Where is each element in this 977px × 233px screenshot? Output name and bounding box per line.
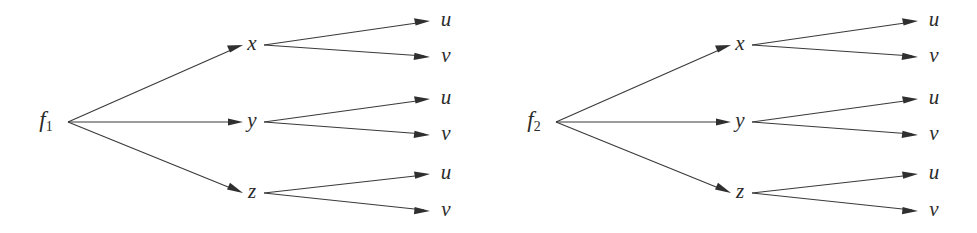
arrowhead-y-to-v-right <box>902 131 918 138</box>
arrowhead-x-to-v-right <box>902 53 918 60</box>
root-node-label-right: f2 <box>527 107 540 134</box>
tree-diagram-figure: f1 x y <box>0 0 977 233</box>
edge-z-to-v-left <box>264 193 424 210</box>
leaf-label-y-v-right: v <box>929 121 939 145</box>
leaf-label-z-u-right: u <box>929 160 940 184</box>
edge-root-to-x-right <box>556 47 726 122</box>
leaf-label-x-u-right: u <box>929 7 940 31</box>
arrowhead-z-to-u-left <box>414 172 430 179</box>
arrowhead-y-to-u-left <box>414 96 430 103</box>
root-node-label-left: f1 <box>39 107 52 134</box>
edge-x-to-u-left <box>264 22 424 45</box>
arrowhead-y-to-v-left <box>414 131 430 138</box>
leaf-label-z-u-left: u <box>441 160 452 184</box>
arrowhead-x-to-u-left <box>414 18 430 25</box>
edge-y-to-u-right <box>752 100 912 122</box>
leaf-label-y-u-right: u <box>929 85 940 109</box>
arrowhead-root-to-z-left <box>227 183 243 193</box>
edge-z-to-u-left <box>264 175 424 193</box>
edge-z-to-u-right <box>752 175 912 193</box>
leaf-label-y-u-left: u <box>441 85 452 109</box>
mid-node-label-y-left: y <box>245 108 257 132</box>
arrowhead-z-to-u-right <box>902 172 918 179</box>
diagram-right: f2 x y z <box>527 7 939 221</box>
edge-y-to-v-left <box>264 122 424 134</box>
arrowhead-root-to-z-right <box>715 183 731 193</box>
leaf-label-x-v-right: v <box>929 43 939 67</box>
arrowhead-x-to-u-right <box>902 18 918 25</box>
edge-root-to-x-left <box>68 47 238 122</box>
leaf-label-y-v-left: v <box>441 121 451 145</box>
root-label-subscript-right: 2 <box>534 119 541 134</box>
mid-node-label-x-right: x <box>734 31 745 55</box>
edge-x-to-v-left <box>264 45 424 56</box>
mid-node-label-z-left: z <box>247 179 256 203</box>
mid-node-label-x-left: x <box>246 31 257 55</box>
arrowhead-z-to-v-left <box>414 207 430 214</box>
edge-y-to-u-left <box>264 100 424 122</box>
arrowhead-y-to-u-right <box>902 96 918 103</box>
arrowhead-root-to-y-left <box>228 118 243 125</box>
root-label-subscript-left: 1 <box>46 119 53 134</box>
leaf-label-x-v-left: v <box>441 43 451 67</box>
edge-x-to-v-right <box>752 45 912 56</box>
diagram-left: f1 x y <box>39 7 451 221</box>
arrowhead-root-to-y-right <box>716 118 731 125</box>
leaf-label-x-u-left: u <box>441 7 452 31</box>
edge-z-to-v-right <box>752 193 912 210</box>
edge-y-to-v-right <box>752 122 912 134</box>
edge-root-to-z-left <box>68 122 238 191</box>
edge-x-to-u-right <box>752 22 912 45</box>
edge-root-to-z-right <box>556 122 726 191</box>
tree-diagram-canvas: f1 x y <box>0 0 977 233</box>
leaf-label-z-v-right: v <box>929 197 939 221</box>
mid-node-label-y-right: y <box>733 108 745 132</box>
arrowhead-z-to-v-right <box>902 207 918 214</box>
arrowhead-x-to-v-left <box>414 53 430 60</box>
mid-node-label-z-right: z <box>735 179 744 203</box>
leaf-label-z-v-left: v <box>441 197 451 221</box>
